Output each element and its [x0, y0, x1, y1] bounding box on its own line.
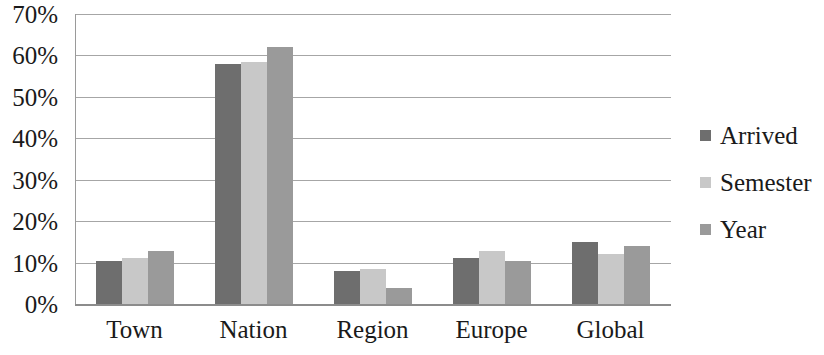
x-axis-tick-label: Region: [313, 314, 432, 345]
legend-label: Year: [720, 217, 766, 242]
y-axis-tick-label: 10%: [0, 251, 58, 276]
y-axis-tick-label: 60%: [0, 43, 58, 68]
legend-item: Year: [700, 206, 824, 253]
legend-label: Arrived: [720, 123, 798, 148]
chart-legend: ArrivedSemesterYear: [700, 112, 824, 253]
bars-layer: [75, 14, 670, 304]
bar: [215, 64, 241, 304]
bar: [479, 251, 505, 304]
bar: [598, 254, 624, 304]
x-axis: TownNationRegionEuropeGlobal: [75, 314, 670, 355]
bar: [267, 47, 293, 304]
legend-label: Semester: [720, 170, 812, 195]
bar: [96, 261, 122, 304]
legend-item: Semester: [700, 159, 824, 206]
y-axis-tick-label: 50%: [0, 85, 58, 110]
x-axis-tick-label: Nation: [194, 314, 313, 345]
bar: [360, 269, 386, 304]
bar-group: [75, 14, 194, 304]
bar-chart: 70%60%50%40%30%20%10%0% TownNationRegion…: [0, 0, 824, 355]
bar: [334, 271, 360, 304]
legend-item: Arrived: [700, 112, 824, 159]
x-axis-tick-label: Global: [551, 314, 670, 345]
x-axis-tick-label: Europe: [432, 314, 551, 345]
y-axis: 70%60%50%40%30%20%10%0%: [0, 0, 58, 355]
y-axis-tick-label: 0%: [0, 292, 58, 317]
bar: [572, 242, 598, 304]
bar: [453, 258, 479, 304]
bar: [624, 246, 650, 304]
bar: [386, 288, 412, 304]
y-axis-tick-label: 20%: [0, 209, 58, 234]
bar-group: [551, 14, 670, 304]
legend-swatch-icon: [700, 130, 711, 141]
legend-swatch-icon: [700, 177, 711, 188]
y-axis-tick-label: 70%: [0, 2, 58, 27]
bar: [241, 62, 267, 304]
x-axis-line: [75, 304, 671, 306]
x-axis-tick-label: Town: [75, 314, 194, 345]
bar-group: [313, 14, 432, 304]
bar: [122, 258, 148, 304]
bar: [505, 261, 531, 305]
bar-group: [194, 14, 313, 304]
y-axis-tick-label: 40%: [0, 126, 58, 151]
bar-group: [432, 14, 551, 304]
bar: [148, 251, 174, 304]
y-axis-tick-label: 30%: [0, 168, 58, 193]
legend-swatch-icon: [700, 224, 711, 235]
